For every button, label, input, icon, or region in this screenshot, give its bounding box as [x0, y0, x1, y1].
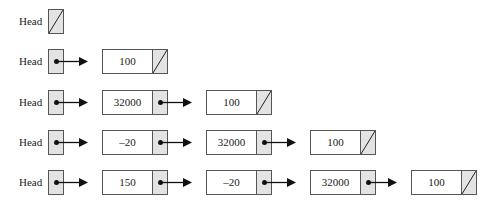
head-label: Head [19, 175, 42, 189]
arrow-icon [264, 130, 296, 155]
arrow-icon [160, 130, 192, 155]
list-node: –20 [206, 170, 272, 195]
next-pointer-cell [462, 171, 476, 194]
head-label: Head [19, 95, 42, 109]
list-node: –20 [102, 130, 168, 155]
list-node: 32000 [310, 170, 376, 195]
list-row: Head32000100 [0, 90, 495, 115]
head-label: Head [19, 54, 42, 68]
node-value: 100 [412, 171, 462, 194]
next-pointer-cell [153, 50, 167, 73]
list-node: 32000 [102, 90, 168, 115]
list-node: 100 [411, 170, 477, 195]
list-node: 100 [102, 49, 168, 74]
arrow-icon [58, 90, 88, 115]
next-pointer-cell [257, 91, 271, 114]
list-node: 32000 [206, 130, 272, 155]
arrow-icon [368, 170, 397, 195]
head-label: Head [19, 135, 42, 149]
node-value: –20 [207, 171, 257, 194]
node-value: 32000 [103, 91, 153, 114]
node-value: –20 [103, 131, 153, 154]
arrow-icon [58, 130, 88, 155]
arrow-icon [58, 49, 88, 74]
node-value: 100 [207, 91, 257, 114]
node-value: 100 [311, 131, 361, 154]
arrow-icon [264, 170, 296, 195]
arrow-icon [160, 170, 192, 195]
list-node: 150 [102, 170, 168, 195]
arrow-icon [58, 170, 88, 195]
head-label: Head [19, 14, 42, 28]
list-row: Head–2032000100 [0, 130, 495, 155]
list-row: Head100 [0, 49, 495, 74]
list-row: Head150–2032000100 [0, 170, 495, 195]
next-pointer-cell [361, 131, 375, 154]
node-value: 150 [103, 171, 153, 194]
head-pointer-cell [48, 9, 64, 34]
list-node: 100 [206, 90, 272, 115]
node-value: 32000 [311, 171, 361, 194]
arrow-icon [160, 90, 192, 115]
node-value: 32000 [207, 131, 257, 154]
list-node: 100 [310, 130, 376, 155]
node-value: 100 [103, 50, 153, 73]
list-row: Head [0, 9, 495, 34]
